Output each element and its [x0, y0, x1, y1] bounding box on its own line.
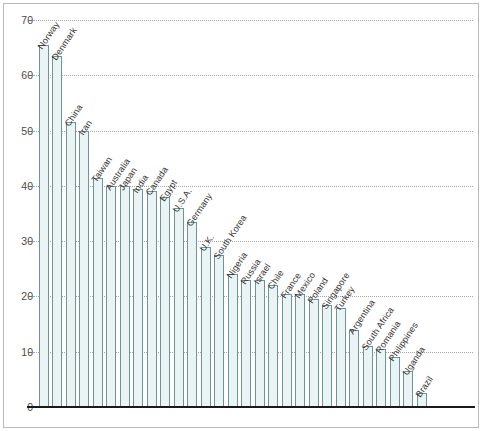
bar	[160, 197, 170, 407]
bar	[363, 346, 373, 407]
bar	[174, 208, 184, 407]
bar	[255, 280, 265, 407]
bar	[93, 178, 103, 407]
y-axis-tick-mark	[28, 186, 32, 187]
y-axis-tick-mark	[28, 20, 32, 21]
bar	[390, 357, 400, 407]
bar	[282, 294, 292, 407]
bar	[228, 274, 238, 407]
bar	[322, 305, 332, 407]
bar	[214, 255, 224, 407]
y-axis-tick-mark	[28, 352, 32, 353]
y-axis-tick-mark	[28, 241, 32, 242]
bar	[295, 294, 305, 407]
bar	[106, 186, 116, 407]
plot-area: NorwayDenmarkChinaIranTaiwanAustraliaJap…	[33, 14, 473, 413]
bar	[66, 122, 76, 407]
bar	[376, 349, 386, 407]
bar-chart: 010203040506070 NorwayDenmarkChinaIranTa…	[0, 0, 482, 431]
bar	[268, 285, 278, 407]
bar	[79, 131, 89, 407]
y-axis-tick-mark	[28, 75, 32, 76]
bar	[187, 222, 197, 407]
bar	[241, 280, 251, 407]
bar	[201, 247, 211, 407]
bar	[349, 330, 359, 407]
bars-group	[33, 14, 473, 407]
bar	[336, 308, 346, 408]
bar	[133, 189, 143, 407]
bar	[309, 299, 319, 407]
bar	[120, 186, 130, 407]
y-axis: 010203040506070	[0, 14, 33, 413]
bar	[39, 45, 49, 407]
y-axis-tick-mark	[28, 296, 32, 297]
bar	[147, 191, 157, 407]
y-axis-tick-mark	[28, 131, 32, 132]
bar	[52, 56, 62, 407]
x-axis-baseline	[27, 406, 475, 408]
